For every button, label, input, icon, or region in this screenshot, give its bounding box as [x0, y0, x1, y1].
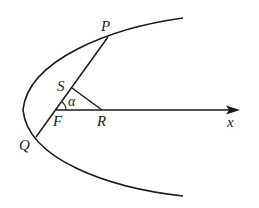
- label-f: F: [52, 113, 63, 129]
- label-r: R: [96, 113, 106, 129]
- segment-sr: [72, 88, 102, 110]
- label-q: Q: [19, 137, 30, 153]
- label-p: P: [100, 18, 110, 34]
- label-s: S: [57, 78, 65, 94]
- parabola-diagram: P S α F R Q x: [0, 0, 259, 208]
- label-x-axis: x: [226, 114, 234, 130]
- angle-alpha-arc: [62, 102, 66, 110]
- label-alpha: α: [68, 94, 76, 109]
